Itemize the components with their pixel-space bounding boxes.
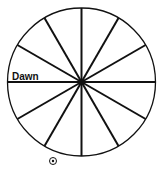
sun-icon [50, 158, 57, 165]
dawn-label: Dawn [12, 71, 39, 82]
center-hub [79, 79, 85, 85]
clock-wheel-diagram: Dawn [0, 0, 162, 171]
